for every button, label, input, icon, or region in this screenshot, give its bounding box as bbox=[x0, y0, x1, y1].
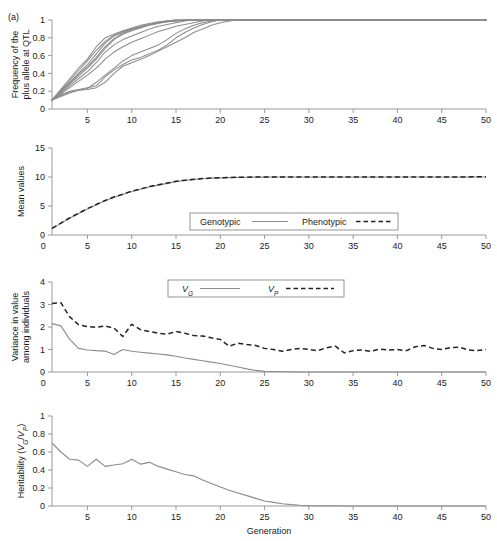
panel_d-xtick-label: 15 bbox=[171, 512, 181, 522]
panel_b-ytick-label: 10 bbox=[35, 172, 45, 182]
panel_b-xtick-label: 40 bbox=[392, 241, 402, 251]
panel_a-xtick-label: 45 bbox=[437, 115, 447, 125]
panel_b-xtick-label: 25 bbox=[260, 241, 270, 251]
svg-text:Mean values: Mean values bbox=[16, 165, 26, 217]
panel_d-ytick-label: 0.4 bbox=[32, 465, 45, 475]
panel_a-xtick-label: 30 bbox=[304, 115, 314, 125]
panel_d-xtick-label: 20 bbox=[215, 512, 225, 522]
panel_d-xtick-label: 50 bbox=[481, 512, 491, 522]
panel_c-xtick-label: 50 bbox=[481, 378, 491, 388]
panel_a-xtick-label: 40 bbox=[392, 115, 402, 125]
chart-panel_b: 05101505101520253035404550Mean valuesGen… bbox=[0, 138, 497, 256]
panel_a-series-run3 bbox=[52, 20, 486, 100]
panel_c-xtick-label: 25 bbox=[260, 378, 270, 388]
panel_b-xtick-label: 20 bbox=[215, 241, 225, 251]
panel_a-series-run9 bbox=[52, 20, 486, 100]
panel_a-ytick-label: 0.2 bbox=[32, 86, 45, 96]
panel_d-xtick-label: 5 bbox=[85, 512, 90, 522]
panel_d-series-Heritability bbox=[52, 443, 486, 506]
panel_d-ylabel: Heritability (VG/VP) bbox=[16, 424, 29, 498]
panel_d-xtick-label: 10 bbox=[127, 512, 137, 522]
panel_a-series-run1 bbox=[52, 20, 486, 100]
panel_b-xtick-label: 45 bbox=[437, 241, 447, 251]
panel_b-ytick-label: 0 bbox=[40, 230, 45, 240]
panel_c-ytick-label: 3 bbox=[40, 300, 45, 310]
legend-entry-genotypic: Genotypic bbox=[200, 217, 241, 227]
svg-text:plus allele at QTL: plus allele at QTL bbox=[21, 29, 31, 99]
panel_c-xtick-label: 15 bbox=[171, 378, 181, 388]
panel_c-ytick-label: 1 bbox=[40, 345, 45, 355]
panel_c-svg: 0123405101520253035404550Variance in val… bbox=[0, 272, 497, 392]
panel_d-ytick-label: 0.6 bbox=[32, 447, 45, 457]
panel_a-ytick-label: 0 bbox=[40, 104, 45, 114]
panel_b-xtick-label: 30 bbox=[304, 241, 314, 251]
panel_b-xtick-label: 0 bbox=[41, 241, 46, 251]
panel-letter-a: (a) bbox=[8, 12, 19, 22]
panel_c-ylabel: Variance in valueamong individuals bbox=[10, 290, 31, 363]
panel_c-xtick-label: 10 bbox=[127, 378, 137, 388]
panel_a-xtick-label: 5 bbox=[85, 115, 90, 125]
svg-text:Frequency of the: Frequency of the bbox=[10, 31, 20, 99]
panel_a-ytick-label: 1 bbox=[40, 15, 45, 25]
panel_d-ytick-label: 0 bbox=[40, 501, 45, 511]
panel_a-series-run2 bbox=[52, 20, 486, 100]
panel_b-xtick-label: 50 bbox=[481, 241, 491, 251]
panel_c-ytick-label: 4 bbox=[40, 277, 45, 287]
svg-text:Variance in value: Variance in value bbox=[10, 293, 20, 361]
panel_d-ytick-label: 0.2 bbox=[32, 483, 45, 493]
svg-text:Heritability (VG/VP): Heritability (VG/VP) bbox=[16, 424, 29, 498]
panel_c-ytick-label: 2 bbox=[40, 322, 45, 332]
legend-entry-phenotypic: Phenotypic bbox=[302, 217, 347, 227]
panel_a-series-run4 bbox=[52, 20, 486, 100]
panel_d-xtick-label: 30 bbox=[304, 512, 314, 522]
panel_c-legend: VGVP bbox=[168, 280, 344, 297]
panel_c-xtick-label: 35 bbox=[348, 378, 358, 388]
panel_a-series-run6 bbox=[52, 20, 486, 100]
panel_b-xtick-label: 10 bbox=[127, 241, 137, 251]
panel_b-ytick-label: 5 bbox=[40, 201, 45, 211]
panel_a-ytick-label: 0.6 bbox=[32, 51, 45, 61]
panel_a-xtick-label: 15 bbox=[171, 115, 181, 125]
panel_c-series-VP bbox=[52, 303, 486, 353]
panel_b-ytick-label: 15 bbox=[35, 143, 45, 153]
panel_c-xtick-label: 20 bbox=[215, 378, 225, 388]
panel_d-xtick-label: 45 bbox=[437, 512, 447, 522]
panel_b-xtick-label: 5 bbox=[85, 241, 90, 251]
panel_d-ytick-label: 0.8 bbox=[32, 429, 45, 439]
chart-panel_a: 00.20.40.60.815101520253035404550Frequen… bbox=[0, 6, 497, 136]
panel_a-series-run8 bbox=[52, 20, 486, 100]
panel_a-xtick-label: 35 bbox=[348, 115, 358, 125]
panel_a-xtick-label: 25 bbox=[260, 115, 270, 125]
panel_a-xtick-label: 50 bbox=[481, 115, 491, 125]
chart-panel_c: 0123405101520253035404550Variance in val… bbox=[0, 272, 497, 392]
panel_c-xtick-label: 30 bbox=[304, 378, 314, 388]
panel_d-axes bbox=[52, 416, 486, 506]
panel_a-series-run7 bbox=[52, 20, 486, 100]
panel_d-xtick-label: 25 bbox=[260, 512, 270, 522]
panel_b-svg: 05101505101520253035404550Mean valuesGen… bbox=[0, 138, 497, 256]
panel_a-svg: 00.20.40.60.815101520253035404550Frequen… bbox=[0, 6, 497, 136]
panel_d-svg: 00.20.40.60.815101520253035404550Heritab… bbox=[0, 406, 497, 541]
panel_c-xtick-label: 0 bbox=[41, 378, 46, 388]
panel_b-xtick-label: 35 bbox=[348, 241, 358, 251]
panel_b-legend: GenotypicPhenotypic bbox=[190, 213, 398, 230]
panel_b-ylabel: Mean values bbox=[16, 165, 26, 217]
panel_d-xtick-label: 40 bbox=[392, 512, 402, 522]
panel_a-series-run10 bbox=[52, 20, 486, 100]
panel_a-ytick-label: 0.4 bbox=[32, 69, 45, 79]
panel_a-ytick-label: 0.8 bbox=[32, 33, 45, 43]
panel_d-xtick-label: 35 bbox=[348, 512, 358, 522]
panel_c-ytick-label: 0 bbox=[40, 367, 45, 377]
panel_a-xtick-label: 10 bbox=[127, 115, 137, 125]
panel_c-xtick-label: 5 bbox=[85, 378, 90, 388]
panel_a-series-run5 bbox=[52, 20, 486, 100]
panel_b-xtick-label: 15 bbox=[171, 241, 181, 251]
chart-panel_d: 00.20.40.60.815101520253035404550Heritab… bbox=[0, 406, 497, 541]
panel_d-xlabel: Generation bbox=[247, 526, 292, 536]
panel_c-xtick-label: 45 bbox=[437, 378, 447, 388]
panel_a-xtick-label: 20 bbox=[215, 115, 225, 125]
panel_d-ytick-label: 1 bbox=[40, 411, 45, 421]
svg-text:among individuals: among individuals bbox=[21, 290, 31, 363]
panel_a-ylabel: Frequency of theplus allele at QTL bbox=[10, 29, 31, 99]
panel_c-xtick-label: 40 bbox=[392, 378, 402, 388]
